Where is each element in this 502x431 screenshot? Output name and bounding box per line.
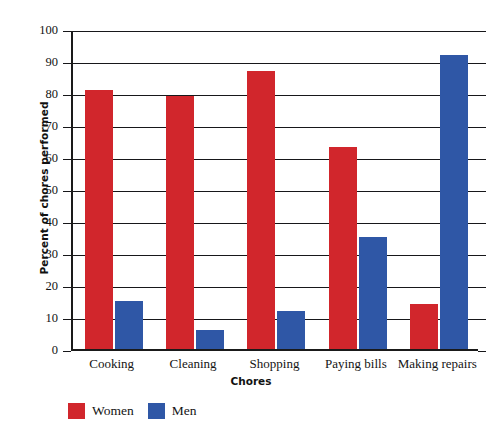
bar-women-paying-bills: [329, 147, 357, 349]
x-axis-tick-label: Paying bills: [315, 356, 396, 372]
y-axis-tick-label: 90: [18, 55, 58, 70]
y-axis-tick: [63, 255, 71, 256]
legend-item-men: Men: [148, 403, 197, 419]
bar-group: [236, 31, 317, 349]
y-axis-tick-label: 80: [18, 87, 58, 102]
bar-women-making-repairs: [410, 304, 438, 349]
y-axis-tick-label: 20: [18, 279, 58, 294]
y-axis-tick-label: 60: [18, 151, 58, 166]
x-axis-title: Chores: [0, 375, 502, 387]
y-axis-tick: [63, 63, 71, 64]
bar-men-cooking: [115, 301, 143, 349]
y-axis-tick: [63, 287, 71, 288]
y-axis-tick-label: 10: [18, 311, 58, 326]
legend-label: Women: [92, 403, 134, 419]
bar-group: [73, 31, 154, 349]
bar-men-cleaning: [196, 330, 224, 349]
legend-item-women: Women: [68, 403, 134, 419]
y-axis-tick-label: 100: [18, 23, 58, 38]
y-axis-tick-label: 0: [18, 343, 58, 358]
bar-women-cleaning: [166, 96, 194, 349]
legend-label: Men: [172, 403, 197, 419]
x-axis-tick-label: Shopping: [234, 356, 315, 372]
y-axis-tick-label: 50: [18, 183, 58, 198]
bar-men-making-repairs: [440, 55, 468, 349]
y-axis-tick: [63, 191, 71, 192]
y-axis-tick: [63, 31, 71, 32]
y-axis-tick-label: 30: [18, 247, 58, 262]
bar-men-paying-bills: [359, 237, 387, 349]
y-axis-tick: [63, 159, 71, 160]
y-axis-tick: [63, 95, 71, 96]
y-axis-tick: [63, 223, 71, 224]
y-axis-tick: [478, 351, 486, 352]
bar-men-shopping: [277, 311, 305, 349]
x-axis-tick-label: Cooking: [71, 356, 152, 372]
legend-swatch-men: [148, 403, 165, 419]
y-axis-tick-label: 40: [18, 215, 58, 230]
bar-group: [154, 31, 235, 349]
x-axis-tick-label: Cleaning: [152, 356, 233, 372]
y-axis-tick: [63, 127, 71, 128]
chart-legend: WomenMen: [68, 403, 196, 419]
y-axis-tick: [63, 319, 71, 320]
bar-chart: Percent of chores performed 100908070605…: [0, 0, 502, 431]
legend-swatch-women: [68, 403, 85, 419]
bar-women-shopping: [247, 71, 275, 349]
y-axis-tick-label: 70: [18, 119, 58, 134]
bar-group: [399, 31, 480, 349]
y-axis-tick: [63, 351, 71, 352]
bar-group: [317, 31, 398, 349]
plot-area: [71, 31, 478, 351]
x-axis-tick-label: Making repairs: [397, 356, 478, 372]
bar-women-cooking: [85, 90, 113, 349]
